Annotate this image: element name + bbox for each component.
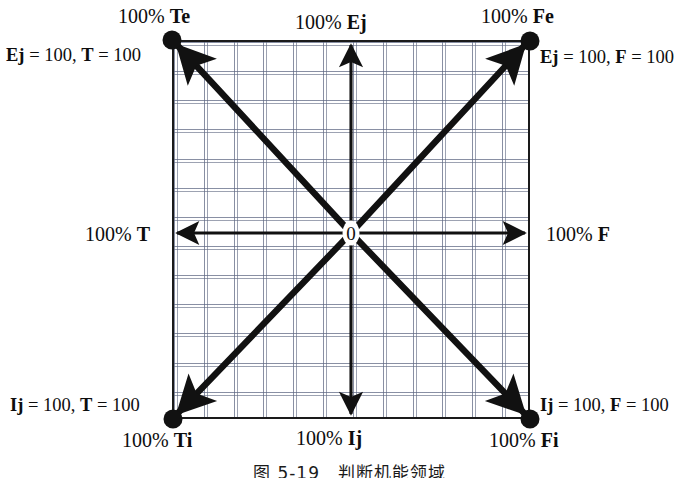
figure-caption: 图 5-19 判断机能领域 — [0, 459, 699, 478]
label-100-ij: 100% Ij — [296, 428, 362, 448]
point-fe — [521, 32, 540, 51]
origin-label: 0 — [343, 221, 360, 246]
label-100-t: 100% T — [85, 224, 150, 244]
label-100-fi: 100% Fi — [489, 430, 558, 450]
figure-canvas: 0 100% Te 100% Fe 100% Ti 100% Fi 100% E… — [0, 0, 699, 478]
point-fi — [521, 410, 540, 429]
label-100-te: 100% Te — [118, 6, 190, 26]
point-ti — [164, 410, 183, 429]
label-100-ej: 100% Ej — [295, 12, 367, 32]
equation-te: Ej = 100, T = 100 — [6, 46, 141, 65]
label-100-ti: 100% Ti — [122, 430, 192, 450]
label-100-fe: 100% Fe — [481, 6, 554, 26]
point-te — [163, 31, 182, 50]
equation-fi: Ij = 100, F = 100 — [540, 396, 669, 415]
equation-fe: Ej = 100, F = 100 — [540, 48, 674, 67]
label-100-f: 100% F — [546, 224, 610, 244]
equation-ti: Ij = 100, T = 100 — [10, 396, 140, 415]
